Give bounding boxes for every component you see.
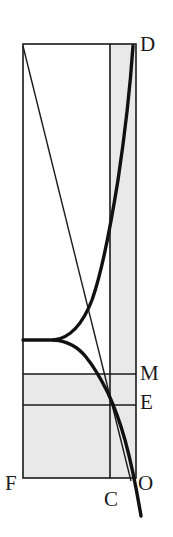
label-D: D	[140, 34, 155, 55]
shaded-regions	[23, 44, 136, 478]
label-E: E	[140, 392, 153, 413]
label-C: C	[104, 489, 118, 510]
label-O: O	[138, 473, 153, 494]
label-F: F	[5, 473, 17, 494]
label-M: M	[140, 363, 159, 384]
geometry-canvas	[0, 0, 173, 537]
shaded-band-M-E	[23, 374, 136, 405]
geometric-figure: D M E F C O	[0, 0, 173, 537]
